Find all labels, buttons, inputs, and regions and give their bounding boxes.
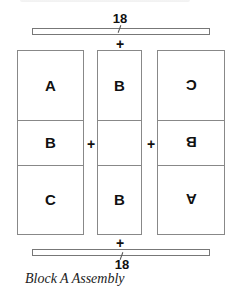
block-label-rotated: B <box>186 134 197 151</box>
clipped-text-fragment <box>20 0 190 2</box>
block-cell: A <box>18 51 83 120</box>
block-label: B <box>114 77 125 94</box>
block-cell <box>98 120 141 165</box>
plus-sign-left: + <box>84 137 98 151</box>
block-label-rotated: C <box>186 77 197 94</box>
top-strip-dimension-label: 18 <box>105 12 135 26</box>
block-cell: B <box>158 120 224 165</box>
block-label: B <box>114 191 125 208</box>
plus-sign-right: + <box>144 137 158 151</box>
plus-sign-top: + <box>113 37 127 51</box>
block-cell: A <box>158 165 224 234</box>
block-cell: B <box>98 165 141 234</box>
column-right: C B A <box>157 50 225 235</box>
block-cell: B <box>98 51 141 120</box>
block-cell: B <box>18 120 83 165</box>
block-cell: C <box>18 165 83 234</box>
plus-sign-bottom: + <box>113 236 127 250</box>
figure-caption: Block A Assembly <box>25 271 125 287</box>
block-label: B <box>45 134 56 151</box>
top-strip <box>32 28 210 35</box>
block-label-rotated: A <box>186 191 197 208</box>
block-label: A <box>45 77 56 94</box>
column-left: A B C <box>17 50 84 235</box>
block-cell: C <box>158 51 224 120</box>
column-center: B B <box>97 50 142 235</box>
block-label: C <box>45 191 56 208</box>
bottom-strip-dimension-label: 18 <box>107 258 137 272</box>
